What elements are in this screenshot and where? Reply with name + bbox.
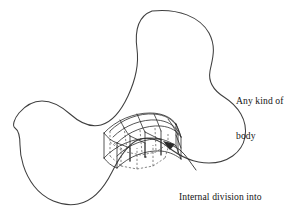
label-body-line2: body [236, 130, 283, 142]
label-any-kind-of-body: Any kind of body [236, 72, 283, 165]
diagram-canvas: Any kind of body Internal division into … [0, 0, 303, 213]
label-body-line1: Any kind of [236, 95, 283, 107]
label-mesh-line1: Internal division into [179, 191, 269, 203]
mesh-hidden-edges [110, 127, 168, 169]
label-internal-division: Internal division into block-shaped elem… [179, 168, 269, 213]
